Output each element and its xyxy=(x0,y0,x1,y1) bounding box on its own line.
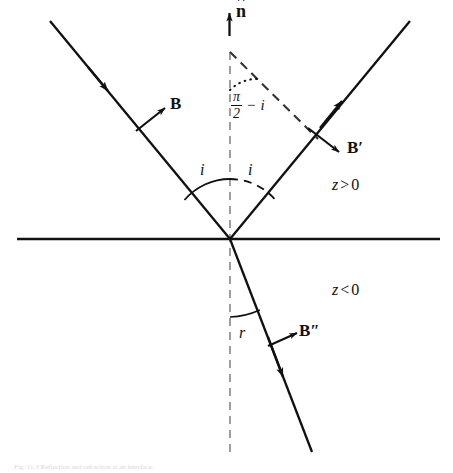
region-upper-label: z>0 xyxy=(332,177,359,193)
reflected-ray-direction-arrow xyxy=(320,101,342,128)
transmitted-field-label: B″ xyxy=(299,322,320,339)
incidence-angle-label-left: i xyxy=(200,162,204,178)
figure-container: ^ n π 2 − i B B′ B″ i i r z>0 z<0 Fig. 1… xyxy=(0,0,453,473)
reflected-field-label: B′ xyxy=(347,139,363,156)
minus-sign: − xyxy=(242,98,260,113)
refraction-angle-label: r xyxy=(239,325,245,341)
incident-field-vector-arrow xyxy=(136,108,165,131)
normal-vector-label: ^ n xyxy=(236,2,246,20)
reflection-angle-arc-right xyxy=(230,179,276,200)
reflection-refraction-diagram xyxy=(0,0,453,473)
region-lower-operator: < xyxy=(338,281,351,298)
incident-ray-direction-arrow xyxy=(88,67,108,91)
transmitted-field-vector-arrow xyxy=(268,333,297,346)
reflected-ray xyxy=(230,21,410,239)
complement-angle-label: π 2 − i xyxy=(231,90,265,122)
incident-field-label: B xyxy=(170,95,181,112)
fraction-denominator: 2 xyxy=(231,106,242,121)
region-lower-value: 0 xyxy=(351,281,359,298)
pi-over-two-fraction: π 2 xyxy=(231,90,242,122)
incident-ray xyxy=(50,21,230,239)
refraction-angle-arc xyxy=(230,310,260,317)
region-upper-operator: > xyxy=(338,176,351,193)
incidence-angle-label-right: i xyxy=(248,162,252,178)
fraction-numerator: π xyxy=(231,90,242,105)
hat-accent-icon: ^ xyxy=(237,0,245,7)
figure-caption: Fig. 11.3 Reflection and refraction at a… xyxy=(14,463,154,473)
incidence-angle-arc-left xyxy=(185,179,231,200)
complement-angle-symbol: i xyxy=(260,98,264,113)
region-lower-label: z<0 xyxy=(332,282,359,298)
region-upper-value: 0 xyxy=(351,176,359,193)
